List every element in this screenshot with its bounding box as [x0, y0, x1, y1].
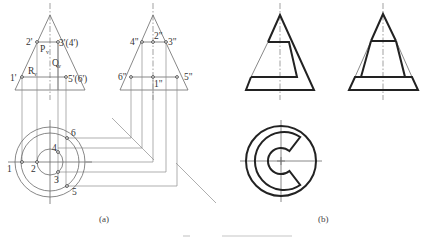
- b-side-base: [349, 77, 418, 90]
- label-P-sub: v: [46, 49, 49, 55]
- label-Q-sub: v: [58, 63, 61, 69]
- label-2-front: 2': [26, 37, 33, 47]
- label-6-top: 6: [71, 128, 76, 138]
- figure-a-side-view: 4" 2" 3" 6" 1" 5": [118, 3, 193, 100]
- label-R-sub: v: [34, 71, 37, 77]
- label-2-side: 2": [154, 31, 163, 41]
- figure-b-front-view: [246, 3, 314, 100]
- miter-line-1: [112, 118, 154, 160]
- label-34-front: 3'(4'): [59, 38, 78, 49]
- point-2-side: [152, 41, 155, 44]
- caption-a: (a): [99, 214, 109, 224]
- b-front-thin-edge: [251, 42, 268, 77]
- caption-b: (b): [318, 214, 329, 224]
- label-2-top: 2: [31, 164, 36, 174]
- figure-a-front-view: 2' 3'(4') P v Q v R v 1' 5'(6'): [10, 3, 87, 100]
- point-6-top: [66, 137, 69, 140]
- label-5-top: 5: [72, 187, 77, 197]
- point-1-top: [21, 161, 24, 164]
- label-1-front: 1': [10, 73, 17, 83]
- label-3-side: 3": [168, 37, 177, 47]
- label-4-side: 4": [130, 37, 139, 47]
- label-1-side: 1": [154, 79, 163, 89]
- figure-b-top-view: [240, 120, 322, 202]
- cone-cut-diagram: 2' 3'(4') P v Q v R v 1' 5'(6') 4" 2" 3"…: [0, 0, 421, 237]
- figure-a-top-view: 1 2 3 4 5 6: [7, 120, 92, 204]
- label-5-side: 5": [184, 72, 193, 82]
- label-P: P: [40, 44, 45, 54]
- point-5-top: [66, 185, 69, 188]
- label-56-front: 5'(6'): [68, 74, 87, 85]
- point-2-top: [36, 161, 39, 164]
- point-4-top: [57, 151, 60, 154]
- label-3-top: 3: [54, 175, 59, 185]
- point-3-top: [57, 171, 60, 174]
- label-6-side: 6": [118, 72, 127, 82]
- b-front-cut: [251, 42, 297, 77]
- b-side-inner-left: [361, 41, 371, 77]
- miter-line-2: [176, 163, 216, 203]
- figure-b-side-view: [349, 3, 418, 100]
- label-1-top: 1: [7, 164, 12, 174]
- label-4-top: 4: [52, 143, 57, 153]
- b-side-apex: [371, 14, 396, 41]
